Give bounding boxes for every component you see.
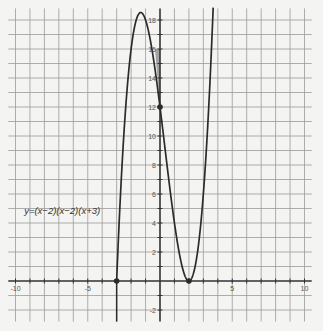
equation-label: y=(x−2)(x−2)(x+3) [23, 205, 100, 216]
point-marker [157, 104, 163, 110]
point-marker [186, 278, 192, 284]
y-tick-label: 6 [152, 191, 156, 198]
y-tick-label: 16 [148, 46, 156, 53]
y-tick-label: 8 [152, 162, 156, 169]
x-tick-label: 5 [230, 285, 234, 292]
y-tick-label: 18 [148, 17, 156, 24]
y-tick-label: 14 [148, 75, 156, 82]
function-graph: -10-5510-224681012141618 y=(x−2)(x−2)(x+… [0, 0, 323, 331]
x-tick-label: 10 [301, 285, 309, 292]
y-tick-label: 4 [152, 220, 156, 227]
point-marker [114, 278, 120, 284]
y-tick-label: 10 [148, 133, 156, 140]
y-tick-label: 12 [148, 104, 156, 111]
x-tick-label: -10 [10, 285, 20, 292]
equation-text: y=(x−2)(x−2)(x+3) [23, 205, 100, 216]
y-tick-label: 2 [152, 249, 156, 256]
y-tick-label: -2 [150, 307, 156, 314]
x-tick-label: -5 [85, 285, 91, 292]
